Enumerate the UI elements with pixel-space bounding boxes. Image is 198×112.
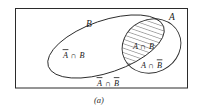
venn-diagram-canvas: A B A ∩ B A ∩ B A ∩ B A ∩ B <box>0 0 198 112</box>
label-not-a-and-b-op: ∩ <box>71 51 77 60</box>
label-set-a: A <box>168 12 175 22</box>
label-not-a-and-not-b-a: A <box>96 79 103 88</box>
label-region-a-and-b: A ∩ B <box>132 42 154 51</box>
label-region-a-and-not-b: A ∩ B <box>140 60 162 70</box>
label-a-and-not-b-op: ∩ <box>148 61 154 70</box>
venn-diagram-figure: A B A ∩ B A ∩ B A ∩ B A ∩ B <box>0 0 198 112</box>
label-region-not-a-and-not-b: A ∩ B <box>96 78 119 88</box>
label-a-and-b-b: B <box>149 42 154 51</box>
label-not-a-and-not-b-op: ∩ <box>105 79 111 88</box>
label-a-and-not-b-b: B <box>157 61 162 70</box>
label-region-not-a-and-b: A ∩ B <box>62 50 85 60</box>
label-a-and-not-b-a: A <box>140 61 147 70</box>
label-a-and-b-a: A <box>132 42 139 51</box>
label-not-a-and-not-b-b: B <box>114 79 119 88</box>
label-set-b: B <box>86 19 92 29</box>
label-a-and-b-op: ∩ <box>140 42 146 51</box>
figure-caption: (a) <box>94 95 104 105</box>
label-not-a-and-b-b: B <box>80 51 85 60</box>
label-not-a-and-b-a: A <box>62 51 69 60</box>
